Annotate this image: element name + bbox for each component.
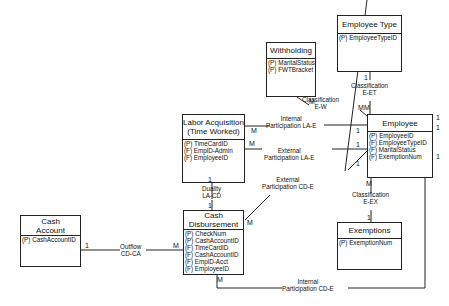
label-line: Classification xyxy=(302,96,339,103)
attribute: (F) EmployeeID xyxy=(185,265,243,272)
relationship-classification-eet[interactable]: Classification E-ET xyxy=(351,82,388,96)
attribute: (F) EmployeeID xyxy=(184,154,244,161)
label-line: Participation LA-E xyxy=(266,122,316,129)
cardinality: 1 xyxy=(208,176,212,183)
relationship-classification-eex[interactable]: Classification E-EX xyxy=(352,191,389,205)
label-line: E-ET xyxy=(351,89,388,96)
cardinality: M xyxy=(366,180,372,187)
title-line: Cash xyxy=(184,211,243,220)
entity-attributes: (P) CheckNum (P) CashAccountID (F) TimeC… xyxy=(184,230,243,272)
relationship-internal-cd-e[interactable]: Internal Participation CD-E xyxy=(282,278,334,292)
relationship-external-cd-e[interactable]: External Participation CD-E xyxy=(262,176,314,190)
entity-attributes: (P) EmployeeID (F) EmployeeTypeID (F) Ma… xyxy=(368,132,432,160)
cardinality: 1 xyxy=(436,153,440,160)
label-line: Internal xyxy=(282,278,334,285)
entity-exemptions[interactable]: Exemptions (P) ExemptionNum xyxy=(337,222,402,270)
cardinality: 1 xyxy=(364,74,368,81)
title-line: Employee xyxy=(368,119,432,128)
cardinality: 1 xyxy=(356,127,360,134)
entity-employee[interactable]: Employee (P) EmployeeID (F) EmployeeType… xyxy=(367,114,433,178)
label-line: CD-CA xyxy=(120,250,141,257)
attribute: (P) CashAccountID xyxy=(185,237,243,244)
entity-attributes: (P) TimeCardID (F) EmplD-Admin (F) Emplo… xyxy=(183,140,244,161)
entity-cash-account[interactable]: Cash Account (P) CashAccountID xyxy=(20,215,81,267)
attribute: (P) CheckNum xyxy=(185,230,243,237)
attribute: (F) MaritalStatus xyxy=(369,146,432,153)
title-line: Disbursement xyxy=(184,220,243,229)
cardinality: 1 xyxy=(367,214,371,221)
entity-attributes: (P) EmployeeTypeID xyxy=(338,34,401,41)
entity-attributes: (P) CashAccountID xyxy=(21,236,80,243)
attribute: (P) MaritalStatus xyxy=(268,59,315,66)
entity-attributes: (P) ExemptionNum xyxy=(338,239,401,246)
attribute: (F) ExemptionNum xyxy=(369,153,432,160)
attribute: (F) EmplD-Acct xyxy=(185,258,243,265)
label-line: Duality xyxy=(202,185,221,192)
cardinality: M xyxy=(247,219,253,226)
cardinality: M xyxy=(173,242,179,249)
cardinality: M xyxy=(309,98,315,105)
cardinality: 1 xyxy=(436,114,440,121)
label-line: LA-CD xyxy=(202,192,221,199)
label-line: Participation CD-E xyxy=(282,285,334,292)
relationship-external-la-e[interactable]: External Participation LA-E xyxy=(264,147,314,161)
attribute: (P) EmployeeTypeID xyxy=(339,34,401,41)
relationship-outflow-cd-ca[interactable]: Outflow CD-CA xyxy=(120,243,141,257)
title-line: Withholding xyxy=(267,46,315,55)
title-line: Labor Acquisition xyxy=(183,118,244,127)
cardinality: 1 xyxy=(208,202,212,209)
entity-cash-disbursement[interactable]: Cash Disbursement (P) CheckNum (P) CashA… xyxy=(183,210,244,275)
entity-title: Exemptions xyxy=(338,223,401,239)
label-line: Classification xyxy=(352,191,389,198)
title-line: Exemptions xyxy=(338,226,401,235)
label-line: Outflow xyxy=(120,243,141,250)
label-line: Participation LA-E xyxy=(264,154,314,161)
cardinality: M xyxy=(251,127,257,134)
entity-title: Employee Type xyxy=(338,16,401,34)
cardinality: 1 xyxy=(356,160,360,167)
cardinality: M xyxy=(249,140,255,147)
cardinality: 1 xyxy=(356,141,360,148)
label-line: External xyxy=(264,147,314,154)
entity-title: Cash Account xyxy=(21,216,80,236)
attribute: (F) EmployeeTypeID xyxy=(369,139,432,146)
relationship-classification-ew[interactable]: Classification E-W xyxy=(302,96,339,110)
attribute: (F) TimeCardID xyxy=(185,244,243,251)
attribute: (P) ExemptionNum xyxy=(339,239,401,246)
label-line: Participation CD-E xyxy=(262,183,314,190)
cardinality: 1 xyxy=(436,124,440,131)
title-line: Cash xyxy=(21,217,80,226)
label-line: Internal xyxy=(266,115,316,122)
entity-attributes: (P) MaritalStatus (P) FWTBracket xyxy=(267,59,315,73)
entity-title: Withholding xyxy=(267,43,315,59)
attribute: (P) TimeCardID xyxy=(184,140,244,147)
entity-title: Labor Acquisition (Time Worked) xyxy=(183,115,244,140)
title-line: Employee Type xyxy=(338,20,401,29)
cardinality: M xyxy=(358,104,364,111)
attribute: (P) CashAccountID xyxy=(22,236,80,243)
relationship-internal-la-e[interactable]: Internal Participation LA-E xyxy=(266,115,316,129)
label-line: E-W xyxy=(302,103,339,110)
title-line: (Time Worked) xyxy=(183,127,244,136)
relationship-duality-la-cd[interactable]: Duality LA-CD xyxy=(202,185,221,199)
title-line: Account xyxy=(21,226,80,235)
cardinality: M xyxy=(364,104,370,111)
entity-labor-acquisition[interactable]: Labor Acquisition (Time Worked) (P) Time… xyxy=(182,114,245,183)
attribute: (P) FWTBracket xyxy=(268,66,315,73)
label-line: External xyxy=(262,176,314,183)
entity-withholding[interactable]: Withholding (P) MaritalStatus (P) FWTBra… xyxy=(266,42,316,97)
entity-title: Employee xyxy=(368,115,432,132)
label-line: Classification xyxy=(351,82,388,89)
cardinality: 1 xyxy=(85,242,89,249)
attribute: (F) EmplD-Admin xyxy=(184,147,244,154)
label-line: E-EX xyxy=(352,198,389,205)
cardinality: M xyxy=(217,276,223,283)
entity-title: Cash Disbursement xyxy=(184,211,243,230)
attribute: (P) EmployeeID xyxy=(369,132,432,139)
attribute: (F) CashAccountID xyxy=(185,251,243,258)
entity-employee-type[interactable]: Employee Type (P) EmployeeTypeID xyxy=(337,15,402,72)
